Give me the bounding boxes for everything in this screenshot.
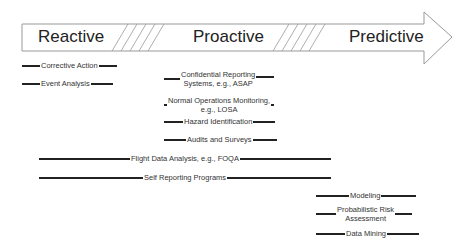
item-hazard-identification: Hazard Identification	[164, 117, 275, 126]
item-flight-data-analysis: Flight Data Analysis, e.g., FOQA	[39, 154, 331, 163]
phase-predictive: Predictive	[349, 28, 424, 46]
item-probabilistic-risk-assessment: Probabilistic RiskAssessment	[316, 205, 412, 223]
item-event-analysis: Event Analysis	[22, 79, 113, 88]
item-data-mining: Data Mining	[316, 229, 419, 238]
item-normal-operations-monitoring: Normal Operations Monitoring,e.g., LOSA	[164, 96, 274, 114]
item-modeling: Modeling	[316, 191, 416, 200]
item-corrective-action: Corrective Action	[22, 61, 117, 70]
phase-reactive: Reactive	[38, 28, 104, 46]
item-audits-and-surveys: Audits and Surveys	[164, 135, 277, 144]
item-confidential-reporting: Confidential ReportingSystems, e.g., ASA…	[164, 70, 274, 88]
item-self-reporting-programs: Self Reporting Programs	[39, 173, 331, 182]
phase-proactive: Proactive	[193, 28, 264, 46]
